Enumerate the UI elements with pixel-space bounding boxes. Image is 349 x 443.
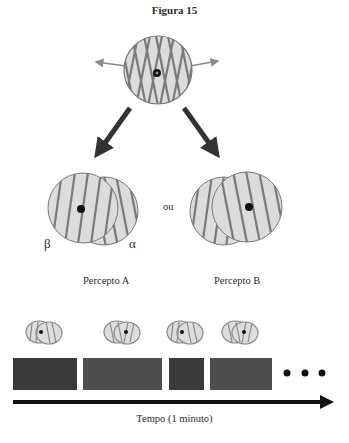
timeline-percept-icons xyxy=(26,321,258,344)
time-axis-arrow-icon xyxy=(13,395,334,409)
timeline-segment-b-2 xyxy=(210,358,272,390)
arrow-to-percept-a-icon xyxy=(100,108,130,150)
motion-left-arrow-icon xyxy=(96,62,126,66)
ellipsis-dots-icon xyxy=(284,370,326,377)
percept-b-gratings-icon xyxy=(190,171,286,247)
plaid-stimulus-icon xyxy=(96,36,218,106)
connector-word: ou xyxy=(163,201,174,212)
percept-b-label: Percepto B xyxy=(214,275,260,286)
beta-label: β xyxy=(44,236,51,252)
motion-right-arrow-icon xyxy=(190,61,218,66)
timeline-segment-a-2 xyxy=(169,358,204,390)
arrow-to-percept-b-icon xyxy=(184,108,214,150)
timeline-segment-a-1 xyxy=(13,358,77,390)
percept-a-gratings-icon xyxy=(48,172,142,247)
alpha-label: α xyxy=(129,236,136,252)
timeline-segment-b-1 xyxy=(83,358,162,390)
time-axis-label: Tempo (1 minuto) xyxy=(0,413,349,424)
percept-a-label: Percepto A xyxy=(83,275,129,286)
diagram-canvas xyxy=(0,0,349,443)
